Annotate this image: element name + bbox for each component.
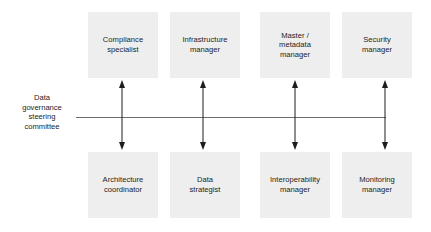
node-label: Interoperability manager [270,175,320,194]
node-label: Security manager [362,35,392,54]
node-master-metadata-manager[interactable]: Master / metadata manager [260,12,330,78]
node-infrastructure-manager[interactable]: Infrastructure manager [170,12,240,78]
node-interoperability-manager[interactable]: Interoperability manager [260,152,330,218]
diagram-canvas: Data governance steering committee Compl… [0,0,431,232]
committee-label: Data governance steering committee [8,93,76,131]
connector-compliance-architecture [115,80,129,150]
node-label: Infrastructure manager [182,35,227,54]
node-label: Master / metadata manager [279,31,311,60]
node-architecture-coordinator[interactable]: Architecture coordinator [88,152,158,218]
connector-security-monitoring [378,80,392,150]
node-security-manager[interactable]: Security manager [342,12,412,78]
connector-infrastructure-data-strategist [196,80,210,150]
node-label: Monitoring manager [359,175,395,194]
node-label: Compliance specialist [103,35,143,54]
node-label: Data strategist [189,175,220,194]
node-compliance-specialist[interactable]: Compliance specialist [88,12,158,78]
node-data-strategist[interactable]: Data strategist [170,152,240,218]
node-monitoring-manager[interactable]: Monitoring manager [342,152,412,218]
connector-master-interoperability [288,80,302,150]
node-label: Architecture coordinator [103,175,144,194]
